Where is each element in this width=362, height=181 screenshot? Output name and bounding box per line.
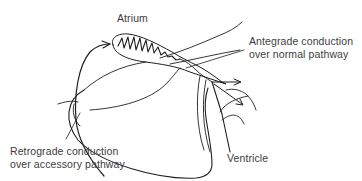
retrograde-leader-line bbox=[66, 113, 80, 139]
retrograde-label-line2: over accessory pathway bbox=[10, 159, 125, 170]
bundle-right-2 bbox=[222, 115, 244, 124]
ventricle-label: Ventricle bbox=[227, 153, 268, 164]
antegrade-label-line2: over normal pathway bbox=[249, 49, 348, 60]
antegrade-label-line1: Antegrade conduction bbox=[249, 36, 353, 47]
atrium-outline bbox=[112, 34, 226, 84]
ventricle-upper-edge bbox=[84, 62, 146, 90]
retrograde-label-line1: Retrograde conduction bbox=[10, 146, 118, 157]
septum-line bbox=[90, 68, 180, 110]
atrium-label: Atrium bbox=[117, 13, 148, 24]
conduction-diagram: Atrium Antegrade conduction over normal … bbox=[0, 0, 362, 181]
bundle-right-3 bbox=[226, 89, 256, 110]
